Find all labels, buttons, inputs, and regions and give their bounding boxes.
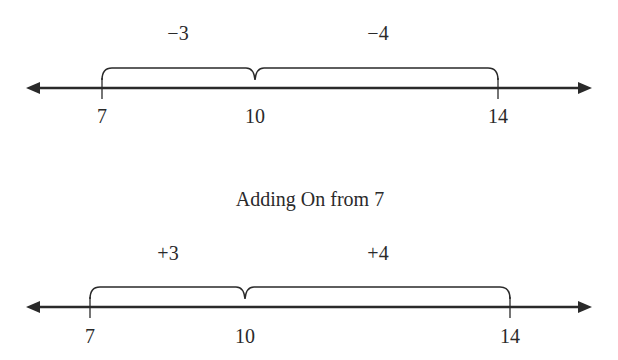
jump-brace [102, 68, 498, 80]
left-arrow-icon [26, 301, 40, 313]
tick-label: 14 [500, 325, 520, 348]
jump-label: −4 [367, 22, 388, 45]
right-arrow-icon [578, 301, 592, 313]
left-arrow-icon [26, 82, 40, 94]
tick-label: 7 [97, 105, 107, 128]
tick-label: 10 [235, 325, 255, 348]
jump-label: −3 [167, 22, 188, 45]
jump-brace [90, 287, 510, 299]
tick-label: 14 [488, 105, 508, 128]
number-line-top [26, 68, 592, 99]
right-arrow-icon [578, 82, 592, 94]
tick-label: 10 [245, 105, 265, 128]
number-lines-drawing [0, 0, 618, 360]
jump-label: +3 [157, 242, 178, 265]
diagram-title: Adding On from 7 [236, 188, 384, 211]
number-line-bottom [26, 287, 592, 318]
jump-label: +4 [367, 242, 388, 265]
tick-label: 7 [85, 325, 95, 348]
